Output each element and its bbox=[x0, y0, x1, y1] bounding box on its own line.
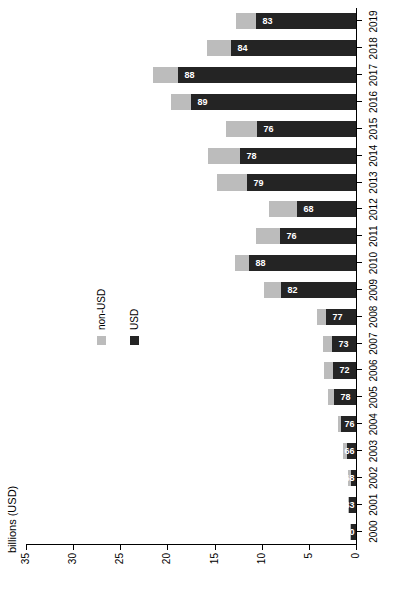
bar-segment-non-usd-2016 bbox=[171, 94, 191, 110]
plot-area: billions (USD) 05101520253035 2000200120… bbox=[0, 0, 401, 597]
bar-value-label-2004: 76 bbox=[344, 420, 354, 429]
category-axis-tick bbox=[357, 74, 362, 75]
bar-group-2008: 77 bbox=[317, 309, 356, 325]
value-axis-tick bbox=[215, 545, 216, 550]
category-axis-tick bbox=[357, 289, 362, 290]
bar-value-label-2014: 78 bbox=[247, 151, 257, 160]
category-axis-tick bbox=[357, 343, 362, 344]
bar-value-label-2013: 79 bbox=[253, 178, 263, 187]
bar-segment-usd-2014 bbox=[240, 148, 356, 164]
value-axis-tick bbox=[26, 545, 27, 550]
bar-value-label-2001: 83 bbox=[344, 500, 354, 509]
value-axis-tick-label: 25 bbox=[114, 553, 125, 583]
bar-value-label-2012: 68 bbox=[303, 205, 313, 214]
category-axis-line bbox=[356, 8, 357, 545]
value-axis-tick-label: 10 bbox=[256, 553, 267, 583]
bar-group-2006: 72 bbox=[324, 362, 356, 378]
bar-value-label-2005: 78 bbox=[340, 393, 350, 402]
bar-segment-non-usd-2005 bbox=[328, 389, 334, 405]
category-axis-tick bbox=[357, 235, 362, 236]
value-axis-tick bbox=[356, 545, 357, 550]
bar-group-2017: 88 bbox=[153, 67, 356, 83]
category-axis-tick bbox=[357, 531, 362, 532]
bar-group-2005: 78 bbox=[328, 389, 356, 405]
bar-segment-usd-2016 bbox=[191, 94, 356, 110]
legend-label-usd: USD bbox=[129, 309, 140, 330]
value-axis-tick-label: 0 bbox=[350, 553, 361, 583]
category-axis-tick bbox=[357, 128, 362, 129]
chart-legend: non-USD USD bbox=[96, 289, 162, 345]
bar-value-label-2018: 84 bbox=[237, 44, 247, 53]
bar-value-label-2016: 89 bbox=[197, 97, 207, 106]
bar-segment-non-usd-2014 bbox=[208, 148, 240, 164]
bar-group-2004: 76 bbox=[338, 416, 356, 432]
bar-segment-non-usd-2010 bbox=[235, 255, 250, 271]
bar-value-label-2010: 88 bbox=[256, 259, 266, 268]
bar-group-2007: 73 bbox=[323, 336, 356, 352]
category-axis-label-2019: 2019 bbox=[368, 4, 379, 38]
bar-segment-non-usd-2013 bbox=[217, 174, 246, 190]
bar-value-label-2007: 73 bbox=[338, 339, 348, 348]
bar-segment-non-usd-2018 bbox=[207, 40, 231, 56]
bar-group-2001: 83 bbox=[348, 497, 356, 513]
value-axis-tick bbox=[309, 545, 310, 550]
bar-segment-non-usd-2019 bbox=[236, 13, 256, 29]
bar-value-label-2015: 76 bbox=[263, 124, 273, 133]
bar-group-2009: 82 bbox=[264, 282, 356, 298]
bar-value-label-2017: 88 bbox=[184, 71, 194, 80]
value-axis-tick bbox=[262, 545, 263, 550]
category-axis-tick bbox=[357, 477, 362, 478]
bar-group-2011: 76 bbox=[256, 228, 356, 244]
value-axis-tick-label: 30 bbox=[67, 553, 78, 583]
bar-segment-non-usd-2015 bbox=[226, 121, 257, 137]
category-axis-tick bbox=[357, 423, 362, 424]
bar-value-label-2003: 66 bbox=[344, 447, 354, 456]
bar-segment-non-usd-2007 bbox=[323, 336, 331, 352]
bar-group-2002: 68 bbox=[348, 470, 356, 486]
category-axis-tick bbox=[357, 504, 362, 505]
bar-value-label-2009: 82 bbox=[287, 285, 297, 294]
bar-value-label-2000: 90 bbox=[344, 527, 354, 536]
bar-group-2015: 76 bbox=[226, 121, 356, 137]
category-axis-tick bbox=[357, 20, 362, 21]
bar-value-label-2008: 77 bbox=[333, 312, 343, 321]
legend-item-non-usd: non-USD bbox=[96, 289, 107, 345]
category-axis-tick bbox=[357, 396, 362, 397]
bar-group-2010: 88 bbox=[235, 255, 356, 271]
value-axis-title: billions (USD) bbox=[6, 486, 18, 553]
value-axis-tick-label: 15 bbox=[209, 553, 220, 583]
value-axis-tick-label: 20 bbox=[161, 553, 172, 583]
category-axis-tick bbox=[357, 47, 362, 48]
category-axis-tick bbox=[357, 369, 362, 370]
category-axis-tick bbox=[357, 101, 362, 102]
bar-group-2000: 90 bbox=[350, 524, 356, 540]
bar-value-label-2011: 76 bbox=[286, 232, 296, 241]
category-axis-tick bbox=[357, 208, 362, 209]
category-axis-tick bbox=[357, 450, 362, 451]
value-axis-tick-label: 35 bbox=[20, 553, 31, 583]
bar-group-2016: 89 bbox=[171, 94, 356, 110]
category-axis-tick bbox=[357, 155, 362, 156]
bar-group-2014: 78 bbox=[208, 148, 356, 164]
bar-group-2012: 68 bbox=[269, 201, 356, 217]
bar-segment-non-usd-2011 bbox=[256, 228, 280, 244]
value-axis-line bbox=[26, 544, 357, 545]
category-axis-tick bbox=[357, 182, 362, 183]
value-axis-tick bbox=[73, 545, 74, 550]
value-axis-tick bbox=[120, 545, 121, 550]
chart-root: billions (USD) 05101520253035 2000200120… bbox=[0, 0, 401, 597]
bar-segment-usd-2017 bbox=[178, 67, 356, 83]
legend-label-non-usd: non-USD bbox=[96, 289, 107, 330]
bar-segment-non-usd-2008 bbox=[317, 309, 326, 325]
chart-rotated-canvas: billions (USD) 05101520253035 2000200120… bbox=[0, 0, 401, 597]
bar-segment-non-usd-2012 bbox=[269, 201, 297, 217]
bar-segment-non-usd-2017 bbox=[153, 67, 178, 83]
category-axis-tick bbox=[357, 316, 362, 317]
bar-group-2003: 66 bbox=[343, 443, 356, 459]
legend-item-usd: USD bbox=[129, 289, 140, 345]
bar-segment-non-usd-2006 bbox=[324, 362, 333, 378]
category-axis-tick bbox=[357, 262, 362, 263]
value-axis-tick bbox=[167, 545, 168, 550]
bar-segment-non-usd-2004 bbox=[338, 416, 342, 432]
bar-segment-usd-2018 bbox=[231, 40, 356, 56]
